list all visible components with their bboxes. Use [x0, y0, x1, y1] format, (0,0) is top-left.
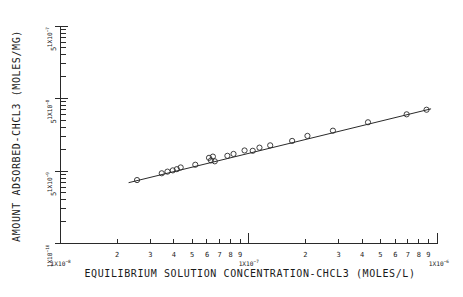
x-tick-label: 7: [217, 251, 221, 259]
x-tick-label: 7: [406, 251, 410, 259]
x-tick-label: 2: [303, 251, 307, 259]
x-tick-label: 5: [190, 251, 194, 259]
y-axis-title: AMOUNT ADSORBED-CHCL3 (MOLES/MG): [11, 30, 22, 242]
x-tick-label: 6: [393, 251, 397, 259]
x-tick-label: 8: [228, 251, 232, 259]
x-tick-label: 5: [378, 251, 382, 259]
x-tick-label: 8: [417, 251, 421, 259]
x-tick-label: 6: [205, 251, 209, 259]
x-tick-label: 3: [336, 251, 340, 259]
log-log-scatter-chart: 1X10−1051X10−951X10−851X10−7 1X10−823456…: [0, 0, 463, 297]
x-tick-label: 4: [360, 251, 364, 259]
plot-figure: 1X10−1051X10−951X10−851X10−7 1X10−823456…: [0, 0, 463, 297]
x-tick-label: 4: [172, 251, 176, 259]
x-tick-label: 2: [115, 251, 119, 259]
x-tick-label: 9: [426, 251, 430, 259]
x-tick-label: 3: [148, 251, 152, 259]
x-axis-title: EQUILIBRIUM SOLUTION CONCENTRATION-CHCL3…: [84, 268, 415, 279]
x-tick-label: 9: [238, 251, 242, 259]
